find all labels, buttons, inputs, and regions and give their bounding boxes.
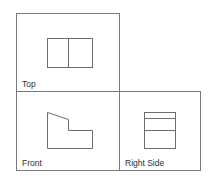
front-view-panel: Front — [17, 92, 120, 171]
top-view-label: Top — [22, 79, 36, 89]
top-view-outline — [48, 39, 93, 68]
right-side-view-panel: Right Side — [120, 92, 201, 171]
orthographic-views-diagram: Top Front Right Side — [0, 0, 211, 180]
top-view-panel: Top — [17, 14, 120, 92]
front-view-outline — [48, 113, 93, 149]
right-side-view-label: Right Side — [125, 158, 164, 168]
front-view-label: Front — [22, 158, 42, 168]
top-view-drawing — [48, 39, 93, 68]
right-side-view-drawing — [145, 113, 176, 149]
